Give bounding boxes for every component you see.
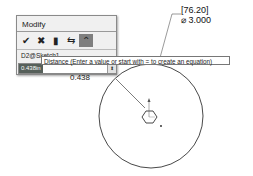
dialog-title: Modify [22, 20, 46, 29]
reverse-icon[interactable]: ⇆ [64, 34, 78, 47]
origin-arrow-icon [148, 98, 151, 102]
diameter-dimension[interactable]: [76.20] ⌀ 3.000 [181, 5, 211, 25]
sketch-circle[interactable] [99, 64, 203, 168]
mark-dimension-icon[interactable]: ⌃ [79, 34, 93, 47]
divider [17, 49, 116, 50]
dimension-line1: [76.20] [181, 5, 211, 15]
divider [17, 31, 116, 32]
leader-line-d2 [116, 79, 145, 108]
close-icon[interactable]: ✖ [34, 34, 48, 47]
modify-dialog: Modify ✔ ✖ ▮ ⇆ ⌃ D2@Sketch1 0.438in ⬍ [16, 15, 117, 75]
check-icon[interactable]: ✔ [19, 34, 33, 47]
value-text[interactable]: 0.438in [19, 64, 43, 73]
dialog-toolbar: ✔ ✖ ▮ ⇆ ⌃ [19, 34, 93, 47]
tooltip: Distance (Enter a value or start with = … [41, 56, 230, 65]
dimension-line2: ⌀ 3.000 [181, 15, 211, 25]
rebuild-icon[interactable]: ▮ [49, 34, 63, 47]
sketch-point[interactable] [160, 125, 162, 127]
